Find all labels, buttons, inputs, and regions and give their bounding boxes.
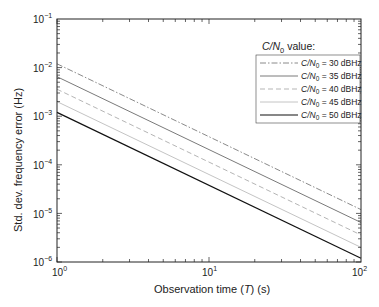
legend: C/N0 = 30 dBHz C/N0 = 35 dBHz C/N0 = 40 … bbox=[256, 55, 362, 123]
chart-figure: 10−1 10−2 10−3 10−4 10−5 10−6 100 101 10… bbox=[0, 0, 379, 307]
y-tick-label: 10−5 bbox=[33, 207, 52, 220]
legend-entry-label: C/N0 = 45 dBHz bbox=[301, 97, 362, 108]
y-tick-label: 10−1 bbox=[33, 12, 52, 25]
series-line bbox=[57, 102, 361, 248]
y-tick-labels: 10−1 10−2 10−3 10−4 10−5 10−6 bbox=[33, 12, 52, 268]
legend-entry-label: C/N0 = 30 dBHz bbox=[301, 58, 362, 69]
x-tick-label: 101 bbox=[202, 265, 217, 278]
legend-entry-label: C/N0 = 35 dBHz bbox=[301, 71, 362, 82]
y-tick-label: 10−4 bbox=[33, 158, 52, 171]
y-tick-label: 10−2 bbox=[33, 61, 52, 74]
legend-entry-label: C/N0 = 50 dBHz bbox=[301, 110, 362, 121]
y-axis-label: Std. dev. frequency error (Hz) bbox=[12, 88, 24, 232]
x-tick-labels: 100 101 102 bbox=[52, 265, 367, 278]
y-tick-label: 10−3 bbox=[33, 109, 52, 122]
legend-title: C/N0 value: bbox=[262, 40, 315, 55]
x-tick-label: 102 bbox=[352, 265, 367, 278]
x-axis-label: Observation time (T) (s) bbox=[154, 283, 270, 295]
legend-entry-label: C/N0 = 40 dBHz bbox=[301, 84, 362, 95]
chart-svg: 10−1 10−2 10−3 10−4 10−5 10−6 100 101 10… bbox=[0, 0, 379, 307]
series-line bbox=[57, 112, 361, 258]
y-tick-label: 10−6 bbox=[33, 255, 52, 268]
x-tick-label: 100 bbox=[52, 265, 67, 278]
